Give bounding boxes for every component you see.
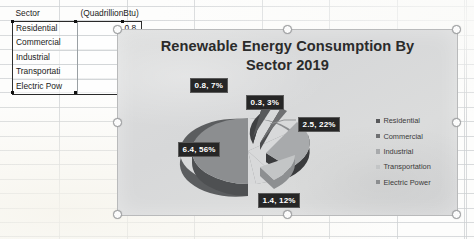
legend-label: Industrial bbox=[383, 147, 413, 156]
legend-swatch-icon bbox=[376, 165, 380, 169]
resize-handle-top-left[interactable] bbox=[113, 25, 122, 34]
legend-label: Transportation bbox=[383, 162, 430, 171]
legend-swatch-icon bbox=[376, 149, 380, 153]
cell-sector-commercial[interactable]: Commercial bbox=[13, 36, 78, 51]
legend-item-electric-power[interactable]: Electric Power bbox=[376, 175, 454, 190]
resize-handle-middle-left[interactable] bbox=[113, 118, 122, 127]
chart-title-line-2: Sector 2019 bbox=[246, 57, 329, 73]
data-label-transportation[interactable]: 1.4, 12% bbox=[258, 193, 300, 208]
legend-item-industrial[interactable]: Industrial bbox=[376, 144, 454, 159]
resize-handle-bottom-center[interactable] bbox=[283, 210, 292, 219]
cell-sector-electric-power[interactable]: Electric Pow bbox=[13, 79, 78, 94]
legend-label: Commercial bbox=[383, 132, 422, 141]
table-header-row: Sector (QuadrillionBtu) bbox=[13, 7, 142, 21]
chart-legend[interactable]: Residential Commercial Industrial Transp… bbox=[376, 113, 454, 190]
legend-swatch-icon bbox=[376, 134, 380, 138]
legend-label: Residential bbox=[383, 116, 420, 125]
cell-sector-residential[interactable]: Residential bbox=[13, 21, 78, 36]
range-marker bbox=[121, 20, 124, 23]
resize-handle-top-right[interactable] bbox=[452, 25, 461, 34]
resize-handle-middle-right[interactable] bbox=[452, 118, 461, 127]
range-marker bbox=[11, 20, 14, 23]
legend-swatch-icon bbox=[376, 119, 380, 123]
chart-title-line-1: Renewable Energy Consumption By bbox=[161, 38, 415, 54]
legend-label: Electric Power bbox=[383, 178, 430, 187]
table-header-sector: Sector bbox=[13, 7, 78, 21]
data-label-commercial[interactable]: 0.3, 3% bbox=[246, 95, 284, 110]
cell-sector-industrial[interactable]: Industrial bbox=[13, 50, 78, 65]
data-label-electric-power[interactable]: 6.4, 56% bbox=[178, 142, 220, 157]
legend-item-residential[interactable]: Residential bbox=[376, 113, 454, 128]
resize-handle-bottom-right[interactable] bbox=[452, 210, 461, 219]
legend-swatch-icon bbox=[376, 180, 380, 184]
resize-handle-top-center[interactable] bbox=[283, 25, 292, 34]
legend-item-commercial[interactable]: Commercial bbox=[376, 128, 454, 143]
legend-item-transportation[interactable]: Transportation bbox=[376, 159, 454, 174]
range-marker bbox=[74, 20, 77, 23]
table-header-units: (QuadrillionBtu) bbox=[78, 7, 142, 21]
range-marker bbox=[74, 91, 77, 94]
pie-plot-area[interactable]: 0.8, 7% 0.3, 3% 2.5, 22% 1.4, 12% 6.4, 5… bbox=[138, 80, 378, 212]
cell-sector-transportation[interactable]: Transportati bbox=[13, 65, 78, 80]
resize-handle-bottom-left[interactable] bbox=[113, 210, 122, 219]
data-label-industrial[interactable]: 2.5, 22% bbox=[298, 117, 340, 132]
chart-title[interactable]: Renewable Energy Consumption By Sector 2… bbox=[118, 37, 457, 76]
data-label-residential[interactable]: 0.8, 7% bbox=[190, 78, 228, 93]
range-marker bbox=[11, 91, 14, 94]
chart-object[interactable]: Renewable Energy Consumption By Sector 2… bbox=[117, 29, 458, 216]
